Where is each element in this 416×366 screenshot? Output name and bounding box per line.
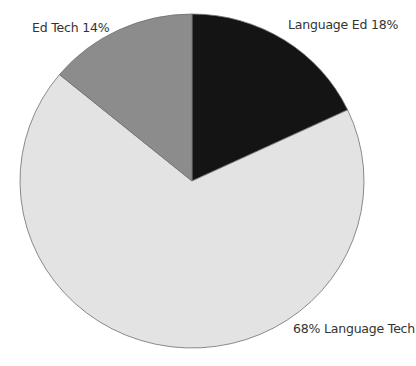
label-language-ed: Language Ed 18% — [288, 17, 398, 32]
label-language-tech: 68% Language Tech — [293, 321, 415, 336]
pie-chart — [0, 0, 416, 366]
label-ed-tech: Ed Tech 14% — [32, 20, 109, 35]
pie-slices — [20, 14, 364, 348]
